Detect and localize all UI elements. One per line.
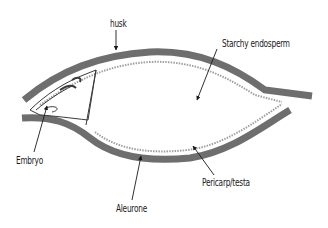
husk-upper (24, 52, 312, 100)
starchy-endosperm-label: Starchy endosperm (222, 38, 290, 49)
grain-diagram: husk Starchy endosperm Embryo Aleurone P… (0, 0, 328, 228)
aleurone-label: Aleurone (116, 203, 147, 214)
husk-label: husk (110, 18, 126, 29)
grain-cross-section-drawing (0, 0, 328, 228)
embryo-label: Embryo (16, 155, 43, 166)
aleurone-arrow (132, 156, 141, 200)
aleurone-lower (95, 104, 282, 151)
pericarp-testa-label: Pericarp/testa (202, 177, 250, 188)
